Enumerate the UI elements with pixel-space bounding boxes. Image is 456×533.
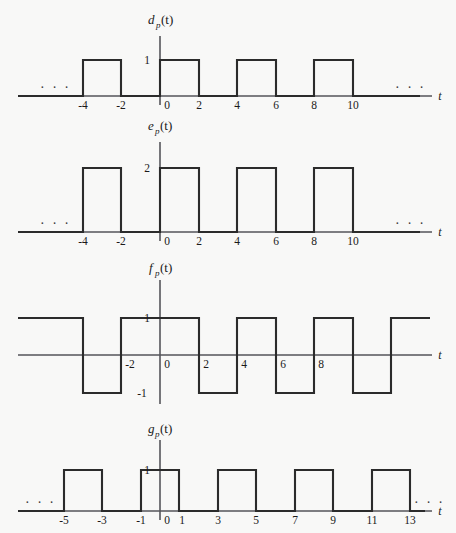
waveform-g-p [18,470,425,511]
y-tick-label-f-neg1: -1 [137,387,147,399]
x-tick-label-d-4: 4 [234,99,240,111]
x-axis-label-d: t [438,89,442,103]
plot-title-e-base: e [148,118,154,133]
x-tick-label-g-4: 1 [179,514,185,526]
x-tick-label-e-4: 4 [234,235,240,247]
y-tick-label-f-pos1: 1 [144,312,150,324]
plot-title-f-arg: (t) [160,260,172,275]
plot-f-p-canvas: f p (t) 1 -1 -2 0 2 4 6 8 t [0,252,456,412]
ellipsis-right-d: · · · [395,80,426,95]
x-tick-label-f-2: 2 [203,358,209,370]
plot-d-p-canvas: d p (t) 1 -4 -2 0 2 4 6 8 10 t · · · · ·… [0,0,456,112]
plot-g-p: g p (t) 1 -5 -3 -1 0 1 3 5 7 9 11 13 t ·… [0,412,456,533]
x-axis-label-f: t [438,348,442,362]
waveform-e-p [18,168,420,232]
ellipsis-left-g: · · · [25,495,56,510]
y-tick-label-d-1: 1 [144,54,150,66]
plot-e-p: e p (t) 2 -4 -2 0 2 4 6 8 10 t · · · · ·… [0,112,456,252]
y-tick-label-e-2: 2 [144,162,150,174]
x-tick-label-d-2: 0 [164,99,170,111]
ellipsis-left-d: · · · [40,80,71,95]
x-tick-label-g-8: 9 [330,514,336,526]
x-tick-label-e-2: 0 [164,235,170,247]
plot-d-p: d p (t) 1 -4 -2 0 2 4 6 8 10 t · · · · ·… [0,0,456,112]
x-tick-label-d-7: 10 [347,99,359,111]
plot-g-p-canvas: g p (t) 1 -5 -3 -1 0 1 3 5 7 9 11 13 t ·… [0,412,456,533]
x-tick-label-g-7: 7 [292,514,298,526]
plot-title-d-base: d [148,12,155,27]
x-tick-label-f-5: 8 [318,358,324,370]
x-tick-label-f-0: -2 [125,358,135,370]
x-tick-label-d-1: -2 [116,99,126,111]
x-tick-label-f-4: 6 [280,358,286,370]
x-tick-label-g-9: 11 [366,514,377,526]
y-tick-label-g-1: 1 [144,464,150,476]
x-tick-label-e-5: 6 [273,235,279,247]
x-tick-label-e-0: -4 [78,235,88,247]
x-tick-label-g-6: 5 [253,514,259,526]
x-tick-label-g-10: 13 [404,514,416,526]
x-axis-label-e: t [438,225,442,239]
x-tick-label-g-5: 3 [215,514,221,526]
waveform-d-p [18,60,420,96]
x-tick-label-f-1: 0 [164,358,170,370]
x-tick-label-g-3: 0 [164,514,170,526]
x-tick-label-g-1: -3 [97,514,107,526]
x-tick-label-d-0: -4 [78,99,88,111]
x-tick-label-e-6: 8 [311,235,317,247]
x-tick-label-e-1: -2 [116,235,126,247]
x-tick-label-g-2: -1 [136,514,146,526]
plot-title-d-arg: (t) [161,12,173,27]
ellipsis-left-e: · · · [40,216,71,231]
x-tick-label-d-6: 8 [311,99,317,111]
ellipsis-right-g: · · · [414,495,445,510]
plot-title-g-base: g [148,421,155,436]
plot-f-p: f p (t) 1 -1 -2 0 2 4 6 8 t [0,252,456,412]
x-tick-label-e-3: 2 [196,235,202,247]
ellipsis-right-e: · · · [395,216,426,231]
x-tick-label-e-7: 10 [347,235,359,247]
x-tick-label-f-3: 4 [241,358,247,370]
periodic-signals-figure: d p (t) 1 -4 -2 0 2 4 6 8 10 t · · · · ·… [0,0,456,533]
x-tick-label-g-0: -5 [59,514,69,526]
x-tick-label-d-3: 2 [196,99,202,111]
plot-title-e-arg: (t) [160,118,172,133]
plot-title-g-arg: (t) [160,421,172,436]
plot-e-p-canvas: e p (t) 2 -4 -2 0 2 4 6 8 10 t · · · · ·… [0,112,456,252]
x-tick-label-d-5: 6 [273,99,279,111]
